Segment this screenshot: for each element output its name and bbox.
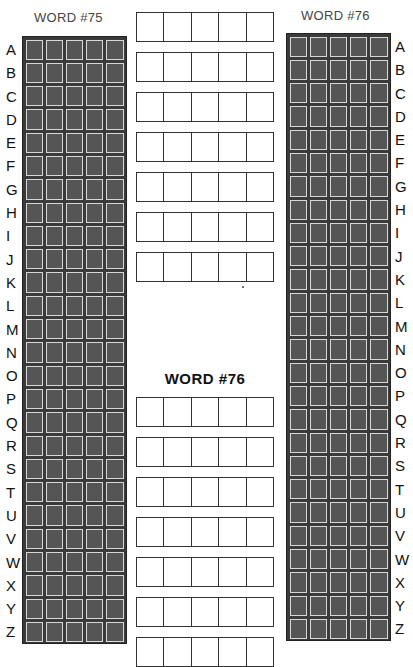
letter-box[interactable]: [137, 638, 164, 666]
left-grid-cell[interactable]: [26, 366, 43, 386]
left-grid-cell[interactable]: [86, 622, 103, 642]
right-grid-cell[interactable]: [330, 37, 347, 57]
right-grid-cell[interactable]: [290, 596, 307, 616]
right-grid-cell[interactable]: [350, 269, 367, 289]
right-grid-cell[interactable]: [330, 293, 347, 313]
letter-box[interactable]: [192, 173, 219, 201]
right-grid-cell[interactable]: [330, 549, 347, 569]
right-grid-cell[interactable]: [350, 433, 367, 453]
right-grid-cell[interactable]: [370, 433, 387, 453]
left-grid-cell[interactable]: [66, 203, 83, 223]
left-grid-cell[interactable]: [26, 63, 43, 83]
left-grid-cell[interactable]: [26, 505, 43, 525]
letter-box[interactable]: [137, 398, 164, 426]
left-grid-cell[interactable]: [26, 482, 43, 502]
letter-box[interactable]: [192, 13, 219, 41]
right-grid-cell[interactable]: [330, 60, 347, 80]
right-grid-cell[interactable]: [310, 339, 327, 359]
left-grid-cell[interactable]: [46, 156, 63, 176]
left-grid-cell[interactable]: [26, 599, 43, 619]
left-grid-cell[interactable]: [66, 249, 83, 269]
left-grid-cell[interactable]: [86, 505, 103, 525]
left-grid-cell[interactable]: [86, 319, 103, 339]
right-grid-cell[interactable]: [310, 596, 327, 616]
left-grid-cell[interactable]: [46, 366, 63, 386]
letter-box[interactable]: [192, 638, 219, 666]
letter-box[interactable]: [247, 253, 273, 281]
left-grid-cell[interactable]: [86, 459, 103, 479]
letter-box[interactable]: [247, 598, 273, 626]
right-grid-cell[interactable]: [330, 572, 347, 592]
right-grid-cell[interactable]: [330, 363, 347, 383]
letter-box[interactable]: [219, 213, 246, 241]
letter-box[interactable]: [164, 518, 191, 546]
left-grid-cell[interactable]: [106, 226, 123, 246]
letter-box[interactable]: [164, 93, 191, 121]
right-grid-cell[interactable]: [310, 176, 327, 196]
right-grid-cell[interactable]: [290, 339, 307, 359]
right-grid-cell[interactable]: [330, 223, 347, 243]
letter-box[interactable]: [192, 53, 219, 81]
left-grid-cell[interactable]: [46, 63, 63, 83]
left-grid-cell[interactable]: [26, 622, 43, 642]
right-grid-cell[interactable]: [350, 200, 367, 220]
right-grid-cell[interactable]: [290, 200, 307, 220]
letter-box[interactable]: [247, 93, 273, 121]
right-grid-cell[interactable]: [370, 130, 387, 150]
left-grid-cell[interactable]: [66, 156, 83, 176]
letter-box[interactable]: [219, 598, 246, 626]
left-grid-cell[interactable]: [66, 109, 83, 129]
right-grid-cell[interactable]: [350, 83, 367, 103]
left-grid-cell[interactable]: [106, 86, 123, 106]
letter-box[interactable]: [137, 133, 164, 161]
letter-box[interactable]: [192, 398, 219, 426]
right-grid-cell[interactable]: [370, 619, 387, 639]
right-grid-cell[interactable]: [330, 176, 347, 196]
left-grid-cell[interactable]: [106, 436, 123, 456]
left-grid-cell[interactable]: [66, 319, 83, 339]
left-grid-cell[interactable]: [46, 179, 63, 199]
left-grid-cell[interactable]: [106, 505, 123, 525]
right-grid-cell[interactable]: [310, 386, 327, 406]
right-grid-cell[interactable]: [310, 106, 327, 126]
left-grid-cell[interactable]: [86, 599, 103, 619]
letter-box[interactable]: [164, 213, 191, 241]
left-grid-cell[interactable]: [46, 203, 63, 223]
left-grid-cell[interactable]: [26, 436, 43, 456]
right-grid-cell[interactable]: [350, 106, 367, 126]
right-grid-cell[interactable]: [290, 526, 307, 546]
right-grid-cell[interactable]: [370, 479, 387, 499]
letter-box[interactable]: [164, 558, 191, 586]
right-grid-cell[interactable]: [350, 246, 367, 266]
left-grid-cell[interactable]: [26, 389, 43, 409]
right-grid-cell[interactable]: [350, 386, 367, 406]
right-grid-cell[interactable]: [350, 479, 367, 499]
right-grid-cell[interactable]: [290, 130, 307, 150]
right-grid-cell[interactable]: [370, 269, 387, 289]
right-grid-cell[interactable]: [370, 60, 387, 80]
right-grid-cell[interactable]: [310, 83, 327, 103]
left-grid-cell[interactable]: [66, 366, 83, 386]
right-grid-cell[interactable]: [330, 269, 347, 289]
letter-box[interactable]: [137, 598, 164, 626]
left-grid-cell[interactable]: [26, 529, 43, 549]
right-grid-cell[interactable]: [290, 293, 307, 313]
letter-box[interactable]: [137, 13, 164, 41]
right-grid-cell[interactable]: [330, 106, 347, 126]
letter-box[interactable]: [247, 213, 273, 241]
letter-box[interactable]: [192, 133, 219, 161]
right-grid-cell[interactable]: [310, 316, 327, 336]
left-grid-cell[interactable]: [106, 109, 123, 129]
right-grid-cell[interactable]: [370, 386, 387, 406]
letter-box[interactable]: [219, 398, 246, 426]
left-grid-cell[interactable]: [86, 40, 103, 60]
left-grid-cell[interactable]: [46, 319, 63, 339]
right-grid-cell[interactable]: [330, 619, 347, 639]
right-grid-cell[interactable]: [350, 526, 367, 546]
left-grid-cell[interactable]: [106, 482, 123, 502]
letter-box[interactable]: [247, 438, 273, 466]
left-grid-cell[interactable]: [66, 179, 83, 199]
right-grid-cell[interactable]: [370, 456, 387, 476]
right-grid-cell[interactable]: [290, 572, 307, 592]
right-grid-cell[interactable]: [330, 409, 347, 429]
